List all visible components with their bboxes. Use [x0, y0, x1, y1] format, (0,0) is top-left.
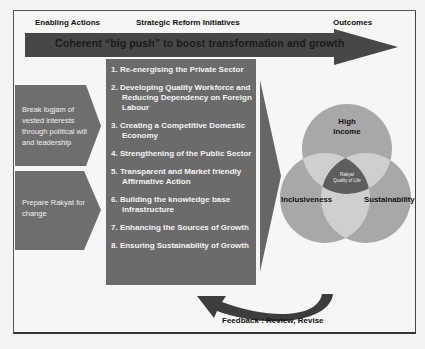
initiative-item: 3. Creating a Competitive Domestic Econo… [110, 121, 256, 141]
outcome-sustainability: Sustainability [364, 195, 415, 204]
initiative-item: 7. Enhancing the Sources of Growth [110, 223, 256, 233]
initiative-item: 1. Re-energising the Private Sector [110, 65, 256, 75]
outcome-high-income: High Income [327, 117, 367, 137]
outcome-inclusiveness: Inclusiveness [281, 195, 332, 204]
initiative-item: 6. Building the knowledge base infrastru… [110, 195, 256, 215]
initiative-item: 8. Ensuring Sustainability of Growth [110, 241, 256, 251]
initiatives-list: 1. Re-energising the Private Sector 2. D… [110, 65, 256, 259]
feedback-label: Feedback : Review, Revise [222, 316, 324, 325]
initiative-item: 2. Developing Quality Workforce and Redu… [110, 83, 256, 113]
big-push-label: Coherent “big push” to boost transformat… [55, 37, 335, 49]
enabling-action-2: Prepare Rakyat for change [22, 197, 94, 219]
outcome-center-quality-of-life: Rakyat Quality of Life [333, 172, 361, 184]
initiative-item: 5. Transparent and Market friendly Affir… [110, 167, 256, 187]
enabling-action-1: Break logjam of vested interests through… [22, 104, 94, 148]
transition-triangle-icon [260, 80, 281, 272]
initiative-item: 4. Strengthening of the Public Sector [110, 149, 256, 159]
